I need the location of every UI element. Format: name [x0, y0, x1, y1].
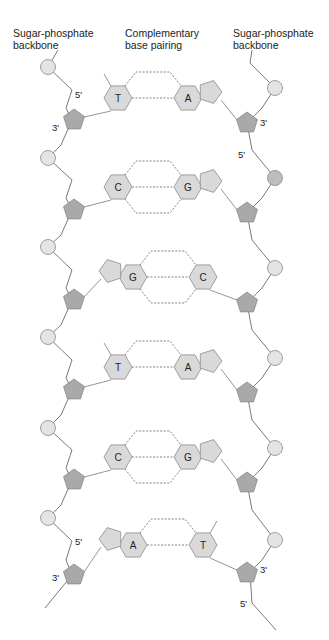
phosphate-right-3: [268, 351, 283, 366]
phosphate-left-3: [41, 330, 56, 345]
sugar-left-1: [64, 199, 85, 219]
base-pair-2: GC: [84, 251, 237, 303]
base-left-label: A: [130, 540, 137, 551]
base-left-label: G: [129, 272, 137, 283]
phosphate-left-5: [41, 511, 56, 526]
sugar-left-5: [64, 564, 85, 584]
end-labels: 5' 3' 3' 5' 5' 3' 3' 5': [52, 89, 267, 609]
dna-diagram: TACGGCTACGAT 5' 3' 3' 5' 5' 3' 3' 5': [0, 0, 329, 640]
sugar-left-3: [64, 379, 85, 399]
base-pair-3: TA: [84, 341, 237, 390]
phosphate-right-5: [268, 533, 283, 548]
base-pair-0: TA: [84, 72, 237, 120]
bottom-right-5-prime: 5': [240, 598, 247, 609]
base-left-label: T: [115, 362, 121, 373]
phosphate-right-0: [268, 81, 283, 96]
bottom-left-5-prime: 5': [75, 536, 82, 547]
base-left-label: C: [114, 182, 121, 193]
phosphate-left-4: [41, 421, 56, 436]
bottom-right-3-prime: 3': [260, 564, 267, 575]
top-left-3-prime: 3': [52, 122, 59, 133]
bottom-left-3-prime: 3': [52, 572, 59, 583]
sugar-right-5: [237, 562, 258, 582]
top-right-5-prime: 5': [238, 149, 245, 160]
phosphate-right-4: [268, 441, 283, 456]
phosphate-left-1: [41, 151, 56, 166]
sugar-left-2: [64, 289, 85, 309]
base-pair-4: CG: [84, 431, 237, 483]
base-pair-5: AT: [84, 519, 237, 572]
base-pairs: TACGGCTACGAT: [84, 72, 237, 572]
sugar-left-0: [64, 109, 85, 129]
sugar-left-4: [64, 469, 85, 489]
phosphate-left-0: [41, 60, 56, 75]
backbone-nodes: [41, 60, 283, 584]
base-right-label: A: [185, 362, 192, 373]
phosphate-right-2: [268, 261, 283, 276]
base-right-label: T: [200, 540, 206, 551]
base-right-label: A: [185, 93, 192, 104]
base-pair-1: CG: [84, 161, 237, 213]
base-right-label: C: [199, 272, 206, 283]
top-right-3-prime: 3': [260, 117, 267, 128]
top-left-5-prime: 5': [75, 89, 82, 100]
phosphate-right-1: [268, 171, 283, 186]
phosphate-left-2: [41, 240, 56, 255]
base-right-label: G: [184, 182, 192, 193]
base-left-label: C: [114, 452, 121, 463]
base-right-label: G: [184, 452, 192, 463]
base-left-label: T: [115, 93, 121, 104]
